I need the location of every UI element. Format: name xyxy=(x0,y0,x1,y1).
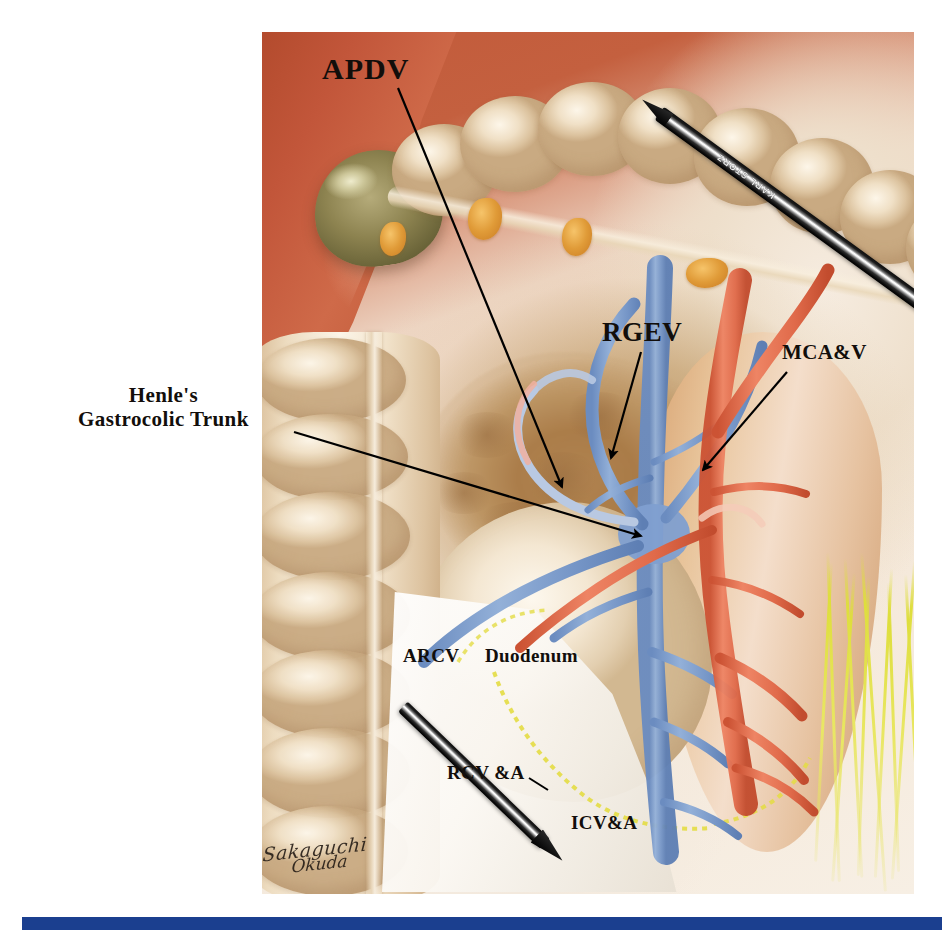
label-apdv: APDV xyxy=(322,52,409,86)
label-arcv: ARCV xyxy=(403,645,460,666)
label-duodenum: Duodenum xyxy=(485,645,578,666)
label-henles-gastrocolic-trunk: Henle's Gastrocolic Trunk xyxy=(78,384,249,431)
label-henles-line1: Henle's xyxy=(78,384,249,408)
label-icva: ICV&A xyxy=(571,812,637,833)
bottom-rule xyxy=(22,917,942,930)
label-rgev: RGEV xyxy=(602,317,682,347)
label-rcva: RCV &A xyxy=(447,762,525,783)
page-root: KARL STORZ Sakaguchi Okuda APDV xyxy=(0,0,942,930)
label-mcav: MCA&V xyxy=(782,341,867,365)
anatomical-illustration: KARL STORZ xyxy=(262,32,914,894)
label-henles-line2: Gastrocolic Trunk xyxy=(78,408,249,432)
vascular-anatomy xyxy=(262,32,914,894)
